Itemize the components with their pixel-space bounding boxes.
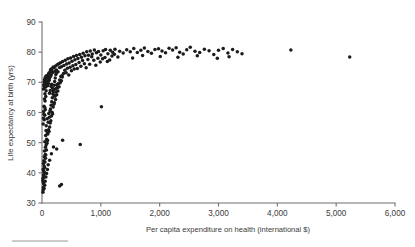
data-point	[207, 49, 211, 53]
data-point	[196, 54, 200, 58]
data-point	[86, 58, 90, 62]
data-point	[113, 47, 117, 51]
data-point	[43, 113, 47, 117]
data-point	[42, 182, 46, 186]
figure-container: 30405060708090 01,0002,0003,0004,0005,00…	[0, 0, 415, 247]
data-point	[54, 98, 58, 102]
data-point	[61, 75, 65, 79]
data-point	[131, 56, 135, 60]
data-point	[240, 52, 244, 56]
x-tick-label: 1,000	[91, 209, 112, 218]
data-point	[77, 61, 81, 65]
data-point	[160, 49, 164, 53]
data-point	[181, 52, 185, 56]
data-point	[55, 147, 59, 151]
data-point	[212, 53, 216, 57]
data-point	[189, 46, 193, 50]
data-point	[51, 112, 55, 116]
data-point	[141, 54, 145, 58]
data-point	[226, 51, 230, 55]
data-point	[94, 63, 98, 67]
y-tick-label: 50	[26, 139, 36, 148]
data-point	[178, 50, 182, 54]
data-point	[103, 56, 107, 60]
data-point	[67, 73, 71, 77]
data-point	[129, 50, 133, 54]
data-point	[80, 56, 84, 60]
data-point	[221, 47, 225, 51]
data-point	[43, 99, 47, 103]
data-point	[52, 145, 56, 149]
data-point	[113, 53, 117, 57]
scatter-plot: 30405060708090 01,0002,0003,0004,0005,00…	[0, 0, 415, 247]
data-point	[56, 86, 60, 90]
data-point	[44, 157, 48, 161]
data-point	[81, 59, 85, 63]
data-point	[106, 52, 110, 56]
data-point	[64, 71, 68, 75]
data-point	[108, 58, 112, 62]
x-tick-label: 0	[40, 209, 45, 218]
data-point	[60, 183, 64, 187]
data-point	[150, 52, 154, 56]
data-point	[56, 70, 60, 74]
y-tick-label: 30	[26, 199, 36, 208]
data-point	[41, 122, 45, 126]
data-point	[125, 48, 129, 52]
data-point	[231, 48, 235, 52]
data-point	[46, 168, 50, 172]
data-point	[100, 105, 104, 109]
y-tick-label: 70	[26, 78, 36, 87]
data-point	[227, 55, 231, 59]
data-point	[53, 80, 57, 84]
data-point	[53, 101, 57, 105]
data-point	[90, 55, 94, 59]
data-point	[171, 48, 175, 52]
data-point	[75, 54, 79, 58]
data-point	[92, 59, 96, 63]
data-point	[88, 62, 92, 66]
data-point	[157, 47, 161, 51]
y-tick-label: 60	[26, 109, 36, 118]
x-axis-ticks: 01,0002,0003,0004,0005,0006,000	[40, 203, 406, 218]
data-point	[97, 50, 101, 54]
y-tick-label: 80	[26, 48, 36, 57]
data-point	[159, 55, 163, 59]
data-point	[216, 56, 220, 60]
data-point	[72, 67, 76, 71]
data-point	[289, 48, 293, 52]
data-point	[74, 63, 78, 67]
data-point	[85, 50, 89, 54]
data-point	[44, 124, 48, 128]
data-point	[48, 125, 52, 129]
data-point	[43, 160, 47, 164]
data-point	[167, 47, 171, 51]
data-point	[76, 57, 80, 61]
data-point	[45, 172, 49, 176]
data-point	[236, 50, 240, 54]
data-point	[51, 86, 55, 90]
data-point	[139, 49, 143, 53]
data-point	[47, 130, 51, 134]
data-point	[121, 51, 125, 55]
data-point	[193, 50, 197, 54]
data-point	[136, 51, 140, 55]
data-point	[60, 79, 64, 83]
data-point	[42, 118, 46, 122]
data-point	[61, 139, 64, 143]
data-point	[44, 95, 48, 99]
x-tick-label: 5,000	[326, 209, 347, 218]
x-tick-label: 2,000	[149, 209, 170, 218]
data-point	[44, 108, 48, 112]
data-point	[146, 50, 150, 54]
data-point	[45, 148, 49, 152]
data-point	[88, 49, 92, 53]
x-tick-label: 3,000	[208, 209, 229, 218]
data-point	[46, 163, 50, 167]
data-point	[83, 62, 87, 66]
data-point	[116, 55, 120, 59]
data-point	[217, 49, 221, 53]
data-point	[174, 46, 178, 50]
y-tick-label: 90	[26, 18, 36, 27]
data-point	[53, 94, 57, 98]
